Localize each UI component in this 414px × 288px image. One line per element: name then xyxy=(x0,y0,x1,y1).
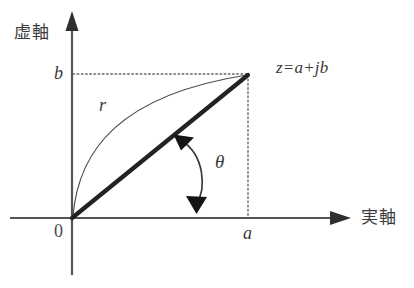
imaginary-axis-label: 虚軸 xyxy=(14,24,49,41)
angle-arc-path xyxy=(182,141,202,205)
point-label-z: z=a+jb xyxy=(276,59,328,76)
origin-label: 0 xyxy=(54,222,63,240)
complex-plane-diagram: 虚軸 実軸 b a 0 z=a+jb r θ xyxy=(0,0,414,288)
imaginary-axis xyxy=(66,11,79,275)
magnitude-label-r: r xyxy=(99,96,106,114)
real-tick-label-a: a xyxy=(243,224,252,242)
real-axis-arrow-icon xyxy=(330,211,351,225)
angle-label-theta: θ xyxy=(215,152,224,171)
imaginary-tick-label-b: b xyxy=(54,64,63,82)
imaginary-axis-arrow-icon xyxy=(66,11,79,31)
angle-arrow-lower-icon xyxy=(186,196,207,214)
real-axis-label: 実軸 xyxy=(361,209,396,226)
angle-arc-theta xyxy=(174,135,208,215)
diagram-canvas xyxy=(0,0,414,288)
